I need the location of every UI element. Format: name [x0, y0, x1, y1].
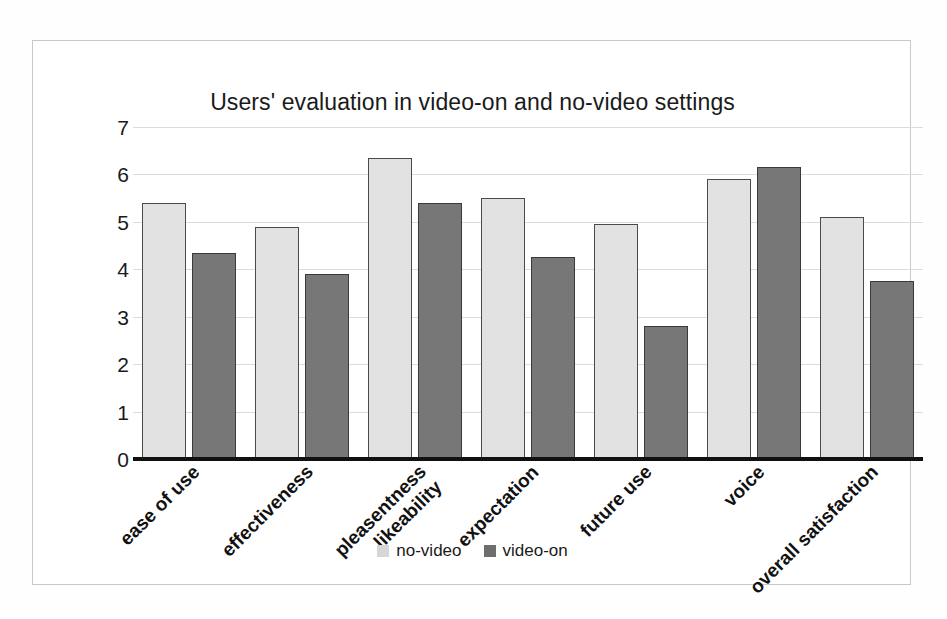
x-axis-tick-label-line: ease of use: [116, 461, 204, 549]
x-axis-tick-label-line: future use: [576, 461, 656, 541]
y-axis-tick-label: 7: [95, 117, 129, 138]
bar-no-video-expectation: [481, 198, 525, 459]
x-axis-tick-label: ease of use: [116, 461, 205, 550]
y-axis-tick-label: 5: [95, 211, 129, 232]
plot-area: [133, 127, 923, 459]
bar-video-on-ease-of-use: [192, 253, 236, 459]
legend-label: video-on: [503, 541, 568, 561]
gridline: [133, 317, 923, 318]
legend-item-video-on: video-on: [484, 541, 568, 561]
legend-swatch-icon: [377, 545, 389, 557]
x-axis-tick-label: future use: [576, 461, 657, 542]
bar-no-video-pleasentness-likeability: [368, 158, 412, 459]
gridline: [133, 364, 923, 365]
bar-video-on-voice: [757, 167, 801, 459]
gridline: [133, 127, 923, 128]
bar-no-video-ease-of-use: [142, 203, 186, 459]
gridline: [133, 412, 923, 413]
bar-video-on-future-use: [644, 326, 688, 459]
gridline: [133, 222, 923, 223]
chart-title: Users' evaluation in video-on and no-vid…: [33, 89, 912, 116]
y-axis-tick-label: 0: [95, 449, 129, 470]
y-axis-tick-label: 1: [95, 401, 129, 422]
gridline: [133, 269, 923, 270]
bar-no-video-overall-satisfaction: [820, 217, 864, 459]
x-axis-category-labels: ease of useeffectivenesspleasentnesslike…: [133, 461, 923, 581]
chart-figure: Users' evaluation in video-on and no-vid…: [32, 40, 911, 585]
y-axis: 01234567: [85, 127, 129, 459]
y-axis-tick-label: 3: [95, 306, 129, 327]
x-axis-tick-label-line: voice: [719, 461, 768, 510]
bar-no-video-effectiveness: [255, 227, 299, 459]
x-axis-tick-label: overall satisfaction: [745, 461, 882, 598]
y-axis-tick-label: 6: [95, 164, 129, 185]
bar-video-on-pleasentness-likeability: [418, 203, 462, 459]
chart-legend: no-videovideo-on: [33, 541, 912, 561]
y-axis-tick-label: 4: [95, 259, 129, 280]
bar-video-on-expectation: [531, 257, 575, 459]
bar-no-video-future-use: [594, 224, 638, 459]
x-axis-tick-label-line: expectation: [453, 461, 543, 551]
x-axis-tick-label: voice: [719, 461, 769, 511]
bar-video-on-overall-satisfaction: [870, 281, 914, 459]
bar-no-video-voice: [707, 179, 751, 459]
bar-video-on-effectiveness: [305, 274, 349, 459]
legend-swatch-icon: [484, 545, 496, 557]
x-axis-tick-label: expectation: [453, 461, 543, 551]
gridline: [133, 174, 923, 175]
y-axis-tick-label: 2: [95, 354, 129, 375]
x-axis-tick-label-line: overall satisfaction: [745, 461, 882, 598]
legend-label: no-video: [396, 541, 461, 561]
legend-item-no-video: no-video: [377, 541, 461, 561]
